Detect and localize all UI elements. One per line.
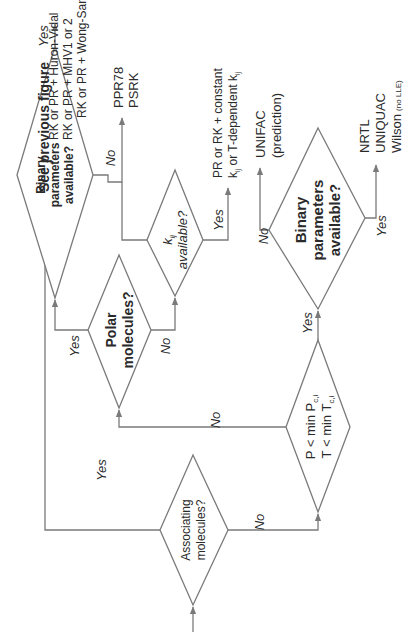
binary1-line2: parameters (48, 142, 62, 207)
label-assoc-no: No (252, 514, 267, 531)
associating-line1: Associating (179, 499, 193, 560)
pt-sub2: c,i (327, 395, 336, 403)
binary1-line1: Binary (34, 156, 48, 194)
unifac: UNIFAC (253, 110, 268, 158)
wilson-note: (no LLE) (394, 80, 403, 111)
flowchart: Associating molecules? See previous figu… (0, 0, 418, 634)
ge-mhv: RK or PR + MHV1 or 2 (61, 18, 75, 140)
pt-line2: T < min T (319, 404, 334, 459)
kij-line2: available? (175, 210, 190, 269)
uniquac: UNIQUAC (373, 93, 388, 153)
label-assoc-yes: Yes (94, 459, 109, 481)
cubic-kij-line1: PR or RK + constant (211, 68, 225, 178)
label-kij-yes: Yes (211, 209, 226, 231)
svg-text:T < min Tc,i: T < min Tc,i (319, 395, 336, 458)
ge-wong-sandler: RK or PR + Wong-Sandler (75, 0, 89, 118)
associating-line2: molecules? (194, 499, 208, 560)
nrtl: NRTL (357, 119, 372, 153)
cubic-kij-sub2: ij (234, 71, 242, 75)
cubic-kij-k2: or T-dependent k (226, 74, 240, 169)
label-binary2-yes: Yes (374, 215, 389, 237)
outcome-predictive-eos: PPR78 PSRK (111, 67, 141, 108)
binary2-line3: available? (326, 184, 343, 257)
label-pt-yes: Yes (300, 312, 315, 334)
svg-text:kij or T-dependent kij: kij or T-dependent kij (226, 71, 242, 178)
edge-binary2-no (260, 168, 269, 230)
label-polar-yes: Yes (67, 335, 82, 357)
wilson: Wilson (389, 114, 404, 153)
outcome-ge-mixing: RK or PR + Huron-Vidal RK or PR + MHV1 o… (47, 0, 89, 140)
polar-line1: Polar (103, 312, 119, 348)
svg-text:P < min Pc,i: P < min Pc,i (303, 395, 320, 460)
binary2-line2: parameters (309, 180, 326, 261)
pressure-temp-label: P < min Pc,i T < min Tc,i (303, 395, 336, 460)
outcome-cubic-kij: PR or RK + constant kij or T-dependent k… (211, 68, 242, 178)
polar-line2: molecules? (120, 291, 136, 368)
edge-pt-no (119, 410, 286, 427)
edge-associating-no (228, 514, 318, 530)
ppr78: PPR78 (111, 67, 126, 108)
outcome-unifac: UNIFAC (prediction) (253, 93, 284, 158)
pressure-temp-diamond (286, 340, 350, 512)
edge-kij-no (122, 182, 147, 240)
unifac-prediction: (prediction) (269, 93, 284, 158)
outcome-activity-models: NRTL UNIQUAC Wilson(no LLE) (357, 80, 404, 153)
label-pt-no: No (208, 412, 223, 429)
label-polar-no: No (158, 338, 173, 355)
edge-polar-yes (55, 300, 88, 330)
label-binary1-no: No (103, 150, 118, 167)
psrk: PSRK (126, 72, 141, 108)
binary2-line1: Binary (292, 196, 309, 243)
label-binary1-yes: Yes (36, 25, 51, 47)
svg-text:Wilson(no LLE): Wilson(no LLE) (389, 80, 404, 153)
pt-line1: P < min P (303, 403, 318, 459)
edge-binary2-yes (365, 165, 376, 218)
edge-polar-no (151, 298, 175, 330)
label-binary2-no: No (256, 228, 271, 245)
associating-label: Associating molecules? (179, 499, 208, 560)
pt-sub1: c,i (311, 395, 320, 403)
binary1-line3: available? (62, 146, 76, 204)
